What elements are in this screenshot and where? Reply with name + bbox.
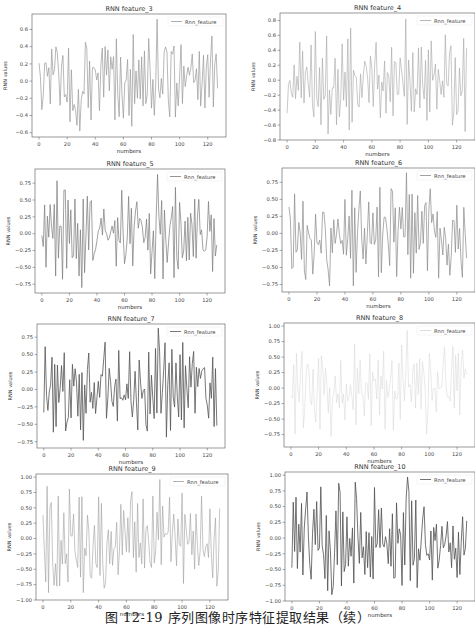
data-series-line bbox=[289, 173, 467, 286]
y-axis-label: RNN values bbox=[252, 215, 258, 244]
x-tick-label: 20 bbox=[314, 296, 321, 302]
y-tick-label: −1.00 bbox=[16, 597, 32, 603]
legend-label: Rnn_feature bbox=[184, 329, 216, 336]
y-tick-label: 0.50 bbox=[268, 354, 280, 360]
data-series-line bbox=[291, 330, 467, 436]
x-tick-label: 40 bbox=[342, 296, 349, 302]
x-tick-label: 120 bbox=[452, 296, 462, 302]
y-tick-label: 0.25 bbox=[268, 369, 280, 375]
y-tick-label: −0.25 bbox=[16, 551, 32, 557]
x-tick-label: 40 bbox=[92, 141, 99, 147]
data-series-line bbox=[42, 174, 217, 287]
legend-label: Rnn_feature bbox=[184, 174, 216, 181]
data-series-line bbox=[44, 328, 217, 440]
y-tick-label: 0.00 bbox=[19, 230, 31, 236]
legend: Rnn_feature bbox=[170, 477, 225, 486]
y-tick-label: 0.75 bbox=[19, 180, 31, 186]
y-tick-label: 0.2 bbox=[20, 61, 28, 67]
chart-title: RNN feature_9 bbox=[108, 465, 155, 473]
legend: Rnn_feature bbox=[167, 172, 222, 181]
y-tick-label: 0.75 bbox=[20, 489, 32, 495]
x-tick-label: 120 bbox=[203, 141, 213, 147]
x-tick-label: 100 bbox=[423, 144, 433, 150]
x-tick-label: 80 bbox=[148, 141, 155, 147]
x-tick-label: 80 bbox=[397, 144, 404, 150]
line-chart: RNN feature_3−0.6−0.4−0.20.00.20.40.6020… bbox=[0, 0, 238, 155]
y-tick-label: 0.6 bbox=[268, 32, 276, 38]
y-tick-label: −0.50 bbox=[15, 264, 31, 270]
y-tick-label: −0.50 bbox=[262, 264, 278, 270]
y-axis-label: RNN values bbox=[7, 371, 13, 400]
x-tick-label: 20 bbox=[315, 451, 322, 457]
legend-label: Rnn_feature bbox=[434, 18, 466, 25]
legend: Rnn_feature bbox=[167, 327, 222, 336]
y-tick-label: 0.25 bbox=[20, 520, 32, 526]
legend-label: Rnn_feature bbox=[434, 477, 466, 484]
y-tick-label: 1.00 bbox=[20, 474, 32, 480]
x-axis-label: numbers bbox=[117, 148, 141, 154]
y-tick-label: −0.75 bbox=[262, 281, 278, 287]
chart-panel-10: RNN feature_10−1.00−0.75−0.50−0.250.000.… bbox=[237, 465, 475, 607]
chart-panel-6: RNN feature_6−0.75−0.50−0.250.000.250.50… bbox=[237, 155, 475, 310]
y-tick-label: −0.4 bbox=[15, 112, 28, 118]
y-tick-label: −0.4 bbox=[263, 107, 276, 113]
legend: Rnn_feature bbox=[417, 326, 472, 335]
line-chart: RNN feature_5−0.75−0.50−0.250.000.250.50… bbox=[0, 155, 238, 310]
x-tick-label: 100 bbox=[175, 297, 185, 303]
y-tick-label: −0.75 bbox=[265, 582, 281, 588]
y-tick-label: 0.50 bbox=[266, 196, 278, 202]
chart-panel-3: RNN feature_3−0.6−0.4−0.20.00.20.40.6020… bbox=[0, 0, 238, 155]
y-tick-label: 0.00 bbox=[269, 535, 281, 541]
legend: Rnn_feature bbox=[417, 475, 472, 484]
y-tick-label: 0.50 bbox=[20, 505, 32, 511]
chart-title: RNN feature_4 bbox=[354, 4, 401, 12]
y-tick-label: 0.0 bbox=[268, 77, 276, 83]
legend: Rnn_feature bbox=[168, 17, 223, 26]
chart-title: RNN feature_10 bbox=[354, 463, 405, 471]
y-tick-label: 0.50 bbox=[21, 351, 33, 357]
chart-title: RNN feature_8 bbox=[356, 314, 403, 322]
x-tick-label: 100 bbox=[424, 451, 434, 457]
y-tick-label: −0.2 bbox=[15, 95, 28, 101]
x-tick-label: 20 bbox=[68, 452, 75, 458]
y-tick-label: −0.2 bbox=[263, 92, 276, 98]
y-tick-label: 0.00 bbox=[266, 230, 278, 236]
data-series-line bbox=[39, 19, 218, 131]
y-axis-label: RNN values bbox=[2, 61, 8, 90]
x-tick-label: 0 bbox=[289, 451, 292, 457]
y-tick-label: 0.2 bbox=[268, 62, 276, 68]
y-tick-label: −0.25 bbox=[264, 400, 280, 406]
y-tick-label: −0.6 bbox=[15, 129, 28, 135]
chart-panel-8: RNN feature_8−0.75−0.50−0.250.000.250.50… bbox=[237, 310, 475, 465]
line-chart: RNN feature_10−1.00−0.75−0.50−0.250.000.… bbox=[237, 465, 475, 607]
y-tick-label: −0.50 bbox=[16, 566, 32, 572]
chart-panel-4: RNN feature_4−0.8−0.6−0.4−0.20.00.20.40.… bbox=[237, 0, 475, 155]
x-tick-label: 80 bbox=[398, 296, 405, 302]
y-tick-label: −0.75 bbox=[15, 281, 31, 287]
x-tick-label: 20 bbox=[66, 297, 73, 303]
legend-label: Rnn_feature bbox=[434, 328, 466, 335]
y-tick-label: −0.50 bbox=[264, 416, 280, 422]
line-chart: RNN feature_8−0.75−0.50−0.250.000.250.50… bbox=[237, 310, 475, 465]
x-tick-label: 0 bbox=[285, 144, 288, 150]
y-axis-label: RNN values bbox=[6, 522, 12, 551]
y-tick-label: −0.8 bbox=[263, 137, 276, 143]
legend-label: Rnn_feature bbox=[187, 479, 219, 486]
chart-title: RNN feature_3 bbox=[105, 5, 152, 13]
y-tick-label: −0.6 bbox=[263, 122, 276, 128]
y-tick-label: −0.75 bbox=[16, 581, 32, 587]
chart-panel-7: RNN feature_7−0.75−0.50−0.250.000.250.50… bbox=[0, 310, 238, 465]
legend: Rnn_feature bbox=[417, 171, 472, 180]
y-tick-label: 0.25 bbox=[19, 214, 31, 220]
x-tick-label: 0 bbox=[42, 452, 45, 458]
x-tick-label: 60 bbox=[370, 296, 377, 302]
axes-frame bbox=[280, 13, 475, 140]
y-tick-label: 0.25 bbox=[269, 519, 281, 525]
y-tick-label: 0.50 bbox=[269, 503, 281, 509]
x-tick-label: 60 bbox=[122, 452, 129, 458]
y-tick-label: 0.6 bbox=[20, 26, 28, 32]
y-axis-label: RNN values bbox=[250, 62, 256, 91]
y-tick-label: 0.4 bbox=[268, 47, 277, 53]
y-tick-label: 1.00 bbox=[268, 323, 280, 329]
y-tick-label: −0.25 bbox=[17, 404, 33, 410]
